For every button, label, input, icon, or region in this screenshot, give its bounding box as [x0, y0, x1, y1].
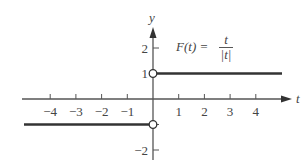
y-tick-label: 1 [142, 66, 149, 81]
x-tick-label: −2 [95, 104, 109, 119]
step-function-graph: ty−4−3−2−1123421−2F(t) =t|t| [0, 0, 308, 167]
chart-canvas: ty−4−3−2−1123421−2F(t) =t|t| [0, 0, 308, 167]
y-tick-label: 2 [142, 41, 149, 56]
x-tick-label: 2 [201, 104, 208, 119]
x-tick-label: 3 [227, 104, 234, 119]
formula-lhs: F(t) = [175, 39, 208, 54]
x-tick-label: 1 [175, 104, 182, 119]
formula-denominator: |t| [221, 47, 232, 62]
x-axis-arrow-icon [281, 96, 292, 103]
x-axis-label: t [296, 91, 300, 106]
x-tick-label: −3 [69, 104, 83, 119]
open-endpoint [149, 121, 157, 129]
x-tick-label: −4 [43, 104, 57, 119]
open-endpoint [149, 70, 157, 78]
formula-numerator: t [224, 32, 228, 47]
y-axis-label: y [147, 10, 155, 25]
x-tick-label: 4 [253, 104, 260, 119]
y-tick-label: −2 [134, 143, 148, 158]
x-tick-label: −1 [120, 104, 134, 119]
y-axis-arrow-icon [150, 27, 157, 38]
